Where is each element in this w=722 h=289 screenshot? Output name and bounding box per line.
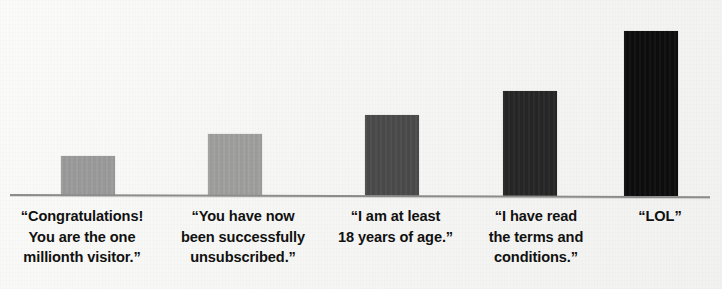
x-label-line: You are the one xyxy=(2,227,162,248)
bar-unsubscribed xyxy=(208,134,262,196)
x-label-congratulations: “Congratulations! You are the one millio… xyxy=(2,203,162,289)
x-label-line: been successfully xyxy=(163,227,323,248)
bar-lol xyxy=(624,31,678,196)
x-label-line: “I am at least xyxy=(323,206,468,227)
x-label-line: 18 years of age.” xyxy=(323,227,468,248)
bar-terms-and-conditions xyxy=(503,91,557,196)
bar-chart: “Congratulations! You are the one millio… xyxy=(0,0,722,289)
x-label-line: “You have now xyxy=(163,206,323,227)
x-label-line: millionth visitor.” xyxy=(2,247,162,268)
x-label-line: “Congratulations! xyxy=(2,206,162,227)
bar-slot xyxy=(163,0,307,196)
x-label-terms-and-conditions: “I have read the terms and conditions.” xyxy=(472,203,600,289)
x-label-line: the terms and xyxy=(472,227,600,248)
bar-slot xyxy=(320,0,464,196)
x-axis-labels: “Congratulations! You are the one millio… xyxy=(0,203,722,289)
x-label-unsubscribed: “You have now been successfully unsubscr… xyxy=(163,203,323,289)
bar-slot xyxy=(579,0,722,196)
x-label-line: unsubscribed.” xyxy=(163,247,323,268)
plot-area xyxy=(0,0,722,196)
bar-age-confirmation xyxy=(365,115,419,196)
bar-congratulations xyxy=(61,156,115,196)
bar-slot xyxy=(16,0,160,196)
x-label-age-confirmation: “I am at least 18 years of age.” xyxy=(323,203,468,289)
x-label-line: conditions.” xyxy=(472,247,600,268)
x-label-line: “LOL” xyxy=(600,206,720,227)
x-label-line: “I have read xyxy=(472,206,600,227)
x-label-lol: “LOL” xyxy=(600,203,720,289)
